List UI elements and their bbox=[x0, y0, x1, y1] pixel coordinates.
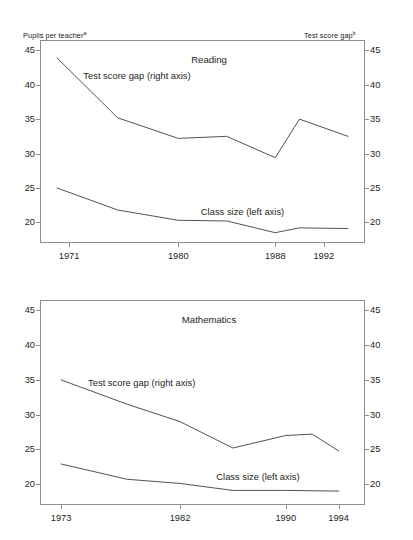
y-axis-tick-mark-left bbox=[36, 415, 40, 416]
x-axis-tick-label: 1980 bbox=[168, 251, 189, 261]
y-axis-tick-value: 25 bbox=[370, 444, 380, 454]
y-axis-tick-value: 35 bbox=[25, 114, 35, 124]
y-axis-tick-value: 40 bbox=[25, 80, 35, 90]
plot-lines-mathematics bbox=[40, 300, 365, 505]
y-axis-tick-label-right: 35 bbox=[370, 119, 380, 129]
y-axis-tick-value: 45 bbox=[370, 305, 380, 315]
y-axis-tick-label-right: 30 bbox=[370, 415, 380, 425]
y-axis-tick-mark-left bbox=[36, 154, 40, 155]
y-axis-tick-label-left: 20 bbox=[25, 222, 35, 232]
series-annotation: Test score gap (right axis) bbox=[83, 70, 190, 81]
y-axis-tick-label-left: 20 bbox=[25, 484, 35, 494]
y-axis-tick-label-right: 40 bbox=[370, 85, 380, 95]
left-axis-caption-text: Pupils per teacher bbox=[23, 31, 83, 40]
y-axis-tick-mark-right bbox=[365, 380, 369, 381]
x-axis-tick-label: 1990 bbox=[275, 513, 296, 523]
y-axis-tick-label-left: 40 bbox=[25, 345, 35, 355]
y-axis-tick-label-left: 30 bbox=[25, 415, 35, 425]
y-axis-tick-mark-right bbox=[365, 484, 369, 485]
panel-title: Reading bbox=[191, 54, 227, 65]
y-axis-tick-label-left: 35 bbox=[25, 119, 35, 129]
left-axis-caption: Pupils per teachera bbox=[23, 31, 86, 40]
x-axis-tick-mark bbox=[286, 505, 287, 509]
y-axis-tick-label-left: 45 bbox=[25, 310, 35, 320]
x-axis-tick-mark bbox=[275, 243, 276, 247]
y-axis-tick-label-right: 45 bbox=[370, 50, 380, 60]
y-axis-tick-value: 35 bbox=[370, 114, 380, 124]
y-axis-tick-label-right: 40 bbox=[370, 345, 380, 355]
x-axis-tick-label: 1982 bbox=[170, 513, 191, 523]
y-axis-tick-mark-left bbox=[36, 85, 40, 86]
y-axis-tick-mark-right bbox=[365, 449, 369, 450]
y-axis-tick-mark-right bbox=[365, 310, 369, 311]
y-axis-tick-mark-right bbox=[365, 154, 369, 155]
y-axis-tick-mark-right bbox=[365, 119, 369, 120]
y-axis-tick-label-right: 20 bbox=[370, 484, 380, 494]
y-axis-tick-value: 45 bbox=[370, 45, 380, 55]
y-axis-tick-mark-right bbox=[365, 345, 369, 346]
series-annotation: Class size (left axis) bbox=[216, 470, 299, 481]
series-line bbox=[61, 380, 338, 451]
series-annotation: Test score gap (right axis) bbox=[88, 377, 195, 388]
y-axis-tick-mark-left bbox=[36, 380, 40, 381]
y-axis-tick-value: 30 bbox=[25, 149, 35, 159]
y-axis-tick-label-left: 30 bbox=[25, 154, 35, 164]
y-axis-tick-value: 20 bbox=[370, 479, 380, 489]
y-axis-tick-value: 25 bbox=[370, 183, 380, 193]
y-axis-tick-value: 40 bbox=[370, 80, 380, 90]
y-axis-tick-label-right: 25 bbox=[370, 449, 380, 459]
y-axis-tick-label-right: 35 bbox=[370, 380, 380, 390]
y-axis-tick-mark-left bbox=[36, 449, 40, 450]
plot-area-reading: 4540353025204540353025201971198019881992… bbox=[40, 40, 365, 243]
chart-page: Pupils per teachera Test score gapb 4540… bbox=[0, 0, 413, 540]
y-axis-tick-label-right: 25 bbox=[370, 188, 380, 198]
right-axis-caption: Test score gapb bbox=[304, 31, 356, 40]
y-axis-tick-value: 30 bbox=[25, 410, 35, 420]
x-axis-tick-label: 1992 bbox=[313, 251, 334, 261]
x-axis-tick-label: 1988 bbox=[265, 251, 286, 261]
y-axis-tick-value: 20 bbox=[25, 217, 35, 227]
y-axis-tick-mark-left bbox=[36, 310, 40, 311]
panel-title: Mathematics bbox=[182, 314, 236, 325]
y-axis-tick-label-left: 45 bbox=[25, 50, 35, 60]
y-axis-tick-value: 40 bbox=[25, 340, 35, 350]
y-axis-tick-mark-left bbox=[36, 50, 40, 51]
y-axis-tick-mark-left bbox=[36, 345, 40, 346]
x-axis-tick-mark bbox=[61, 505, 62, 509]
series-annotation: Class size (left axis) bbox=[201, 206, 284, 217]
y-axis-tick-label-right: 30 bbox=[370, 154, 380, 164]
y-axis-tick-value: 20 bbox=[25, 479, 35, 489]
y-axis-tick-value: 40 bbox=[370, 340, 380, 350]
y-axis-tick-mark-left bbox=[36, 222, 40, 223]
y-axis-tick-mark-right bbox=[365, 50, 369, 51]
y-axis-tick-mark-left bbox=[36, 188, 40, 189]
y-axis-tick-mark-left bbox=[36, 119, 40, 120]
x-axis-tick-mark bbox=[339, 505, 340, 509]
y-axis-tick-label-left: 25 bbox=[25, 188, 35, 198]
y-axis-tick-value: 30 bbox=[370, 149, 380, 159]
right-axis-caption-note: b bbox=[353, 30, 356, 36]
left-axis-caption-note: a bbox=[83, 30, 86, 36]
plot-area-mathematics: 4540353025204540353025201973198219901994… bbox=[40, 300, 365, 505]
y-axis-tick-value: 30 bbox=[370, 410, 380, 420]
y-axis-tick-value: 25 bbox=[25, 444, 35, 454]
y-axis-tick-mark-right bbox=[365, 85, 369, 86]
x-axis-tick-mark bbox=[180, 505, 181, 509]
x-axis-tick-mark bbox=[178, 243, 179, 247]
right-axis-caption-text: Test score gap bbox=[304, 31, 353, 40]
x-axis-tick-label: 1973 bbox=[51, 513, 72, 523]
y-axis-tick-mark-right bbox=[365, 415, 369, 416]
y-axis-tick-value: 25 bbox=[25, 183, 35, 193]
y-axis-tick-mark-left bbox=[36, 484, 40, 485]
y-axis-tick-label-left: 40 bbox=[25, 85, 35, 95]
x-axis-tick-mark bbox=[324, 243, 325, 247]
y-axis-tick-mark-right bbox=[365, 222, 369, 223]
y-axis-tick-value: 35 bbox=[370, 375, 380, 385]
x-axis-tick-mark bbox=[69, 243, 70, 247]
chart-panel-reading: 4540353025204540353025201971198019881992… bbox=[0, 40, 413, 265]
y-axis-tick-value: 20 bbox=[370, 217, 380, 227]
y-axis-tick-value: 45 bbox=[25, 305, 35, 315]
y-axis-tick-label-right: 45 bbox=[370, 310, 380, 320]
y-axis-tick-value: 35 bbox=[25, 375, 35, 385]
y-axis-tick-value: 45 bbox=[25, 45, 35, 55]
